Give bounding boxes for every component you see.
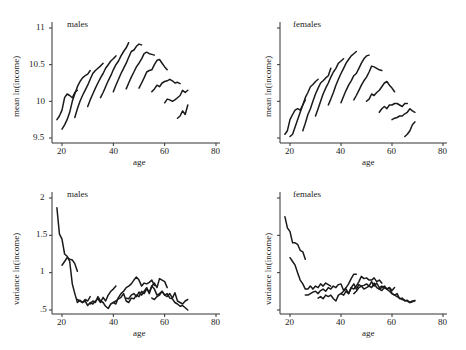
series-line bbox=[405, 122, 415, 137]
series-line bbox=[367, 82, 395, 102]
panel-mean-females bbox=[277, 22, 447, 146]
panel-title-mean-males: males bbox=[67, 19, 88, 29]
xtick-label: 40 bbox=[336, 317, 345, 327]
xtick-label: 80 bbox=[211, 317, 220, 327]
panel-title-var-females: females bbox=[293, 189, 321, 199]
panel-title-mean-females: females bbox=[293, 19, 321, 29]
ytick-label: 10 bbox=[36, 96, 45, 106]
panel-mean-males bbox=[49, 22, 220, 146]
xtick-label: 20 bbox=[285, 146, 294, 156]
ytick-label: 1 bbox=[40, 266, 45, 276]
xtick-label: 80 bbox=[211, 146, 220, 156]
xtick-label: 60 bbox=[160, 146, 169, 156]
panel-var-females bbox=[277, 192, 447, 317]
ytick-label: 1.5 bbox=[36, 229, 47, 239]
xtick-label: 20 bbox=[285, 317, 294, 327]
x-axis-label-mean-males: age bbox=[133, 157, 146, 167]
xtick-label: 80 bbox=[438, 317, 447, 327]
ytick-label: 10.5 bbox=[29, 59, 45, 69]
ytick-label: 11 bbox=[36, 22, 45, 32]
xtick-label: 40 bbox=[109, 317, 118, 327]
xtick-label: 40 bbox=[336, 146, 345, 156]
x-axis-label-var-males: age bbox=[133, 328, 146, 338]
series-line bbox=[165, 90, 188, 103]
xtick-label: 60 bbox=[387, 317, 396, 327]
y-axis-label-var-males: variance ln(income) bbox=[11, 233, 21, 305]
xtick-label: 20 bbox=[57, 146, 66, 156]
series-line bbox=[77, 286, 116, 305]
ytick-label: 9.5 bbox=[33, 132, 44, 142]
series-line bbox=[379, 104, 407, 113]
ytick-label: .5 bbox=[40, 304, 47, 314]
xtick-label: 20 bbox=[57, 317, 66, 327]
series-line bbox=[290, 258, 331, 289]
xtick-label: 60 bbox=[387, 146, 396, 156]
series-line bbox=[62, 71, 90, 130]
y-axis-label-mean-females: mean ln(income) bbox=[263, 56, 273, 117]
y-axis-label-mean-males: mean ln(income) bbox=[11, 56, 21, 117]
series-line bbox=[316, 59, 344, 116]
series-line bbox=[178, 105, 188, 118]
ytick-label: 2 bbox=[40, 192, 45, 202]
series-line bbox=[88, 56, 116, 107]
x-axis-label-mean-females: age bbox=[362, 157, 375, 167]
x-axis-label-var-females: age bbox=[362, 328, 375, 338]
panel-var-males bbox=[49, 192, 220, 317]
xtick-label: 80 bbox=[438, 146, 447, 156]
xtick-label: 40 bbox=[109, 146, 118, 156]
series-line bbox=[126, 286, 188, 310]
series-line bbox=[152, 79, 180, 92]
panel-title-var-males: males bbox=[67, 189, 88, 199]
chart-canvas bbox=[0, 0, 466, 350]
series-line bbox=[285, 217, 305, 260]
series-line bbox=[303, 68, 331, 130]
series-line bbox=[392, 109, 415, 120]
series-line bbox=[139, 60, 167, 89]
series-line bbox=[57, 208, 90, 303]
xtick-label: 60 bbox=[160, 317, 169, 327]
y-axis-label-var-females: variance ln(income) bbox=[263, 233, 273, 305]
figure: males mean ln(income) age 11 10.5 10 9.5… bbox=[0, 0, 466, 350]
